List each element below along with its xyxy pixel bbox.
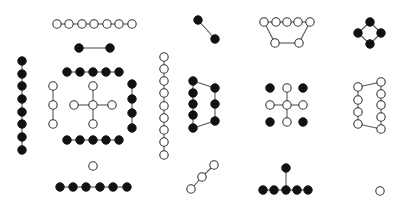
filled-vertex bbox=[89, 136, 97, 144]
open-vertex bbox=[377, 78, 385, 86]
filled-vertex bbox=[106, 44, 114, 52]
open-vertex bbox=[306, 18, 314, 26]
filled-vertex bbox=[266, 84, 274, 92]
filled-vertex bbox=[128, 80, 136, 88]
filled-vertex bbox=[189, 111, 197, 119]
open-vertex bbox=[283, 101, 291, 109]
open-vertex bbox=[198, 173, 206, 181]
open-vertex bbox=[377, 125, 385, 133]
filled-vertex bbox=[366, 18, 374, 26]
open-vertex bbox=[49, 82, 57, 90]
open-vertex bbox=[160, 89, 168, 97]
filled-vertex bbox=[299, 118, 307, 126]
filled-vertex bbox=[18, 146, 26, 154]
open-vertex bbox=[376, 187, 384, 195]
open-vertex bbox=[354, 120, 362, 128]
filled-vertex bbox=[18, 70, 26, 78]
open-vertex bbox=[377, 113, 385, 121]
filled-vertex bbox=[18, 82, 26, 90]
filled-vertex bbox=[75, 44, 83, 52]
filled-vertex bbox=[259, 186, 267, 194]
open-vertex bbox=[260, 18, 268, 26]
graph-cross-open-with-filled-corners bbox=[266, 84, 307, 126]
filled-vertex bbox=[63, 68, 71, 76]
graph-diagram bbox=[0, 0, 402, 207]
filled-vertex bbox=[304, 186, 312, 194]
open-vertex bbox=[78, 20, 86, 28]
filled-vertex bbox=[18, 95, 26, 103]
open-vertex bbox=[160, 114, 168, 122]
graph-path-3-open-vertical bbox=[49, 82, 57, 128]
filled-vertex bbox=[115, 68, 123, 76]
open-vertex bbox=[160, 53, 168, 61]
open-vertex bbox=[210, 161, 218, 169]
open-vertex bbox=[283, 18, 291, 26]
filled-vertex bbox=[18, 57, 26, 65]
filled-vertex bbox=[282, 164, 290, 172]
open-vertex bbox=[272, 18, 280, 26]
filled-vertex bbox=[211, 35, 219, 43]
open-vertex bbox=[128, 20, 136, 28]
filled-vertex bbox=[102, 136, 110, 144]
filled-vertex bbox=[76, 136, 84, 144]
filled-vertex bbox=[102, 68, 110, 76]
open-vertex bbox=[283, 118, 291, 126]
open-vertex bbox=[160, 138, 168, 146]
graph-path-9-open-vertical bbox=[160, 53, 168, 159]
filled-vertex bbox=[128, 95, 136, 103]
open-vertex bbox=[295, 39, 303, 47]
filled-vertex bbox=[282, 186, 290, 194]
filled-vertex bbox=[211, 84, 219, 92]
open-vertex bbox=[115, 20, 123, 28]
open-vertex bbox=[70, 101, 78, 109]
open-vertex bbox=[89, 162, 97, 170]
open-vertex bbox=[160, 151, 168, 159]
open-vertex bbox=[160, 65, 168, 73]
filled-vertex bbox=[266, 118, 274, 126]
filled-vertex bbox=[128, 124, 136, 132]
open-vertex bbox=[160, 126, 168, 134]
graph-isolated-open bbox=[89, 162, 97, 170]
open-vertex bbox=[271, 39, 279, 47]
open-vertex bbox=[89, 120, 97, 128]
filled-vertex bbox=[76, 68, 84, 76]
open-vertex bbox=[377, 101, 385, 109]
filled-vertex bbox=[123, 183, 131, 191]
graph-isolated-open-right bbox=[376, 187, 384, 195]
filled-vertex bbox=[194, 16, 202, 24]
open-vertex bbox=[354, 108, 362, 116]
filled-vertex bbox=[18, 120, 26, 128]
filled-vertex bbox=[299, 84, 307, 92]
open-vertex bbox=[65, 20, 73, 28]
filled-vertex bbox=[18, 133, 26, 141]
filled-vertex bbox=[354, 29, 362, 37]
open-vertex bbox=[299, 101, 307, 109]
open-vertex bbox=[160, 102, 168, 110]
filled-vertex bbox=[189, 100, 197, 108]
filled-vertex bbox=[18, 108, 26, 116]
open-vertex bbox=[49, 101, 57, 109]
open-vertex bbox=[90, 20, 98, 28]
open-vertex bbox=[283, 84, 291, 92]
open-vertex bbox=[377, 90, 385, 98]
open-vertex bbox=[108, 101, 116, 109]
filled-vertex bbox=[211, 117, 219, 125]
filled-vertex bbox=[189, 89, 197, 97]
filled-vertex bbox=[293, 186, 301, 194]
open-vertex bbox=[89, 82, 97, 90]
filled-vertex bbox=[377, 29, 385, 37]
filled-vertex bbox=[270, 186, 278, 194]
open-vertex bbox=[294, 18, 302, 26]
filled-vertex bbox=[96, 183, 104, 191]
filled-vertex bbox=[189, 124, 197, 132]
filled-vertex bbox=[89, 68, 97, 76]
filled-vertex bbox=[189, 77, 197, 85]
open-vertex bbox=[49, 120, 57, 128]
open-vertex bbox=[89, 101, 97, 109]
open-vertex bbox=[53, 20, 61, 28]
open-vertex bbox=[354, 83, 362, 91]
filled-vertex bbox=[56, 183, 64, 191]
filled-vertex bbox=[115, 136, 123, 144]
open-vertex bbox=[160, 77, 168, 85]
open-vertex bbox=[103, 20, 111, 28]
